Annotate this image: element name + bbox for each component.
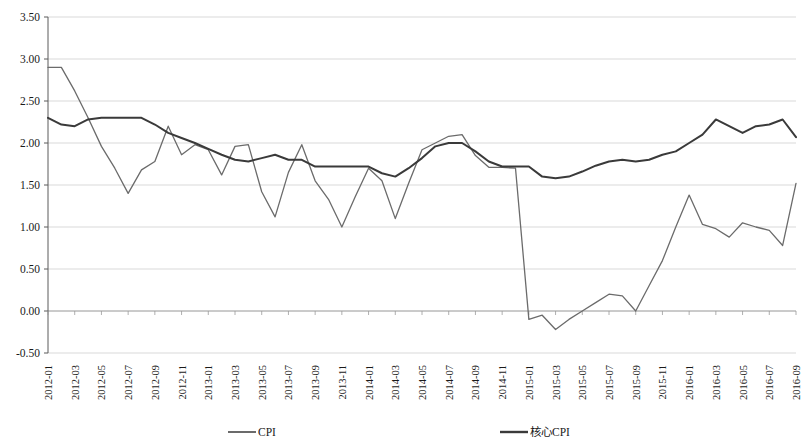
- y-axis-tick-label: 2.00: [20, 137, 40, 149]
- x-axis-tick-label: 2016-01: [684, 365, 695, 400]
- x-axis-tick-label: 2012-11: [177, 365, 188, 400]
- x-axis-tick-label: 2013-05: [257, 365, 268, 400]
- x-axis-tick-label: 2014-03: [390, 365, 401, 400]
- x-axis-tick-label: 2012-05: [96, 365, 107, 400]
- y-axis-tick-label: 1.00: [20, 221, 40, 233]
- x-axis-tick-label: 2013-09: [310, 365, 321, 400]
- y-axis-tick-label: -0.50: [16, 347, 40, 359]
- x-axis-tick-label: 2013-11: [337, 365, 348, 400]
- x-axis-tick-label: 2013-03: [230, 365, 241, 400]
- x-axis-tick-labels: 2012-012012-032012-052012-072012-092012-…: [43, 365, 802, 400]
- y-axis-tick-label: 1.50: [20, 179, 40, 191]
- legend-label-cpi: CPI: [258, 426, 276, 438]
- x-axis-tick-label: 2015-05: [577, 365, 588, 400]
- x-axis-tick-label: 2012-03: [70, 365, 81, 400]
- x-axis-tick-label: 2014-07: [444, 365, 455, 400]
- x-axis-tick-label: 2014-11: [497, 365, 508, 400]
- cpi-line-chart: 3.503.002.502.001.501.000.500.00-0.50 20…: [0, 0, 806, 447]
- series-line-cpi: [48, 67, 796, 329]
- y-axis-tick-label: 2.50: [20, 95, 40, 107]
- chart-canvas: 3.503.002.502.001.501.000.500.00-0.50 20…: [0, 0, 806, 447]
- x-axis-tick-label: 2012-07: [123, 365, 134, 400]
- x-axis-tick-label: 2015-01: [524, 365, 535, 400]
- x-axis-tick-label: 2015-03: [551, 365, 562, 400]
- y-axis-tick-label: 0.50: [20, 263, 40, 275]
- x-axis-tick-label: 2014-09: [470, 365, 481, 400]
- y-axis-tick-label: 0.00: [20, 305, 40, 317]
- x-axis-tick-label: 2015-11: [657, 365, 668, 400]
- x-axis-tick-label: 2016-07: [764, 365, 775, 400]
- x-axis-tick-label: 2012-01: [43, 365, 54, 400]
- chart-legend: CPI核心CPI: [228, 425, 570, 438]
- x-axis-tick-label: 2012-09: [150, 365, 161, 400]
- legend-label-core-cpi: 核心CPI: [530, 425, 570, 438]
- x-axis-tick-label: 2013-07: [283, 365, 294, 400]
- x-axis-tick-label: 2016-09: [791, 365, 802, 400]
- x-axis-tick-label: 2013-01: [203, 365, 214, 400]
- y-axis-tick-label: 3.00: [20, 53, 40, 65]
- x-axis-tick-label: 2015-09: [631, 365, 642, 400]
- data-series-layer: [48, 67, 796, 329]
- x-axis-tick-label: 2014-05: [417, 365, 428, 400]
- x-axis-tick-label: 2016-03: [711, 365, 722, 400]
- x-axis-tick-label: 2015-07: [604, 365, 615, 400]
- y-axis-tick-label: 3.50: [20, 11, 40, 23]
- gridlines: [48, 17, 796, 353]
- x-axis-tick-label: 2016-05: [738, 365, 749, 400]
- x-axis-tick-label: 2014-01: [364, 365, 375, 400]
- y-axis-tick-labels: 3.503.002.502.001.501.000.500.00-0.50: [16, 11, 40, 359]
